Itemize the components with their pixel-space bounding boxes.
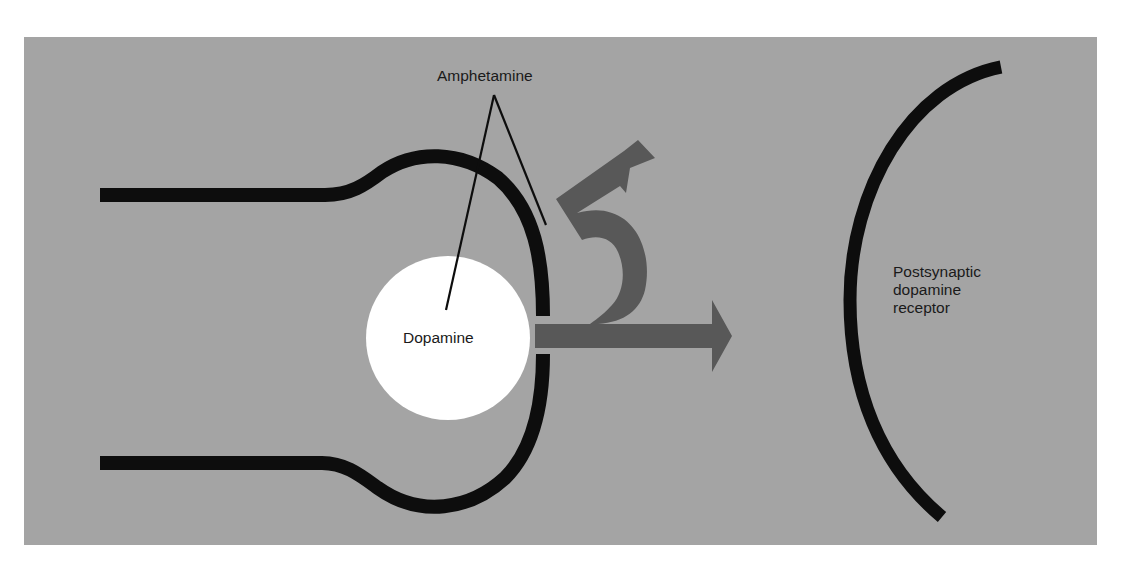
amphetamine-label: Amphetamine [437,67,533,85]
release-arrow-icon [535,300,732,372]
receptor-label: Postsynaptic dopamine receptor [893,263,981,317]
dopamine-label: Dopamine [403,329,474,347]
reverse-arrow-icon [556,140,655,324]
